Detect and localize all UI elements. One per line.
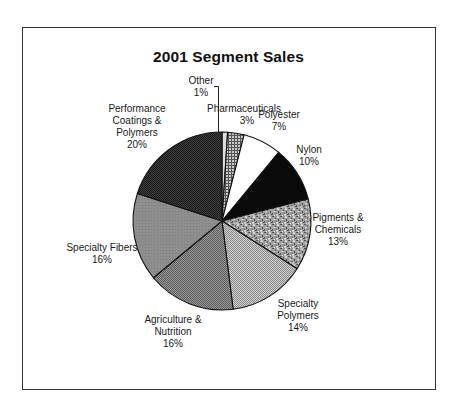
label-nylon: Nylon 10% [296, 144, 322, 168]
label-other: Other 1% [188, 75, 213, 99]
pie-chart [0, 0, 457, 412]
label-performance-coatings: Performance Coatings & Polymers 20% [108, 103, 165, 151]
pie-slices [133, 132, 311, 310]
label-agriculture-nutrition: Agriculture & Nutrition 16% [144, 314, 201, 350]
label-specialty-polymers: Specialty Polymers 14% [277, 298, 319, 334]
label-polyester: Polyester 7% [258, 109, 300, 133]
label-pigments-chemicals: Pigments & Chemicals 13% [312, 212, 363, 248]
label-specialty-fibers: Specialty Fibers 16% [66, 242, 137, 266]
